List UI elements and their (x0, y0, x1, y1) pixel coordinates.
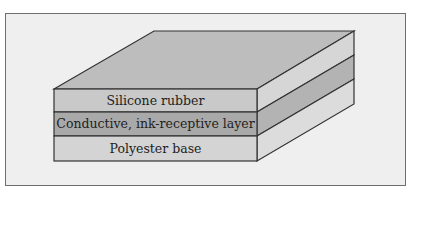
layer-label-polyester-base: Polyester base (54, 137, 257, 161)
layer-label-conductive: Conductive, ink-receptive layer (54, 112, 257, 136)
layer-label-silicone-rubber: Silicone rubber (54, 89, 257, 113)
